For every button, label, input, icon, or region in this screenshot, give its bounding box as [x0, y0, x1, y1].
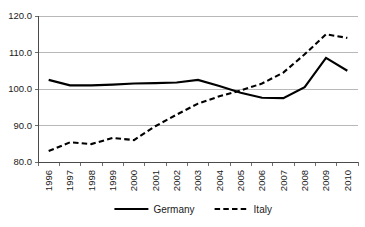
plot-background: [0, 0, 365, 227]
x-tick-label-1998: 1998: [86, 170, 97, 191]
chart-canvas: 80.090.0100.0110.0120.0 1996199719981999…: [0, 0, 365, 227]
y-tick-label: 120.0: [8, 10, 32, 21]
x-tick-label-1996: 1996: [43, 170, 54, 191]
legend-label-germany: Germany: [153, 204, 194, 215]
y-tick-label: 100.0: [8, 83, 32, 94]
legend-label-italy: Italy: [254, 204, 272, 215]
x-axis-tick-labels: 1996199719981999200020012002200320042005…: [43, 170, 353, 191]
x-tick-label-2001: 2001: [150, 170, 161, 191]
x-tick-label-2008: 2008: [299, 170, 310, 191]
x-tick-label-2007: 2007: [278, 170, 289, 191]
x-tick-label-1997: 1997: [64, 170, 75, 191]
x-tick-label-2010: 2010: [342, 170, 353, 191]
x-tick-label-2004: 2004: [214, 170, 225, 191]
x-tick-label-2006: 2006: [256, 170, 267, 191]
y-tick-label: 80.0: [14, 156, 33, 167]
x-tick-label-1999: 1999: [107, 170, 118, 191]
y-tick-label: 110.0: [9, 47, 32, 58]
y-tick-label: 90.0: [14, 120, 33, 131]
x-tick-label-2009: 2009: [320, 170, 331, 191]
x-tick-label-2002: 2002: [171, 170, 182, 191]
x-tick-label-2000: 2000: [128, 170, 139, 191]
x-tick-label-2005: 2005: [235, 170, 246, 191]
x-tick-label-2003: 2003: [192, 170, 203, 191]
line-chart: 80.090.0100.0110.0120.0 1996199719981999…: [0, 0, 365, 227]
